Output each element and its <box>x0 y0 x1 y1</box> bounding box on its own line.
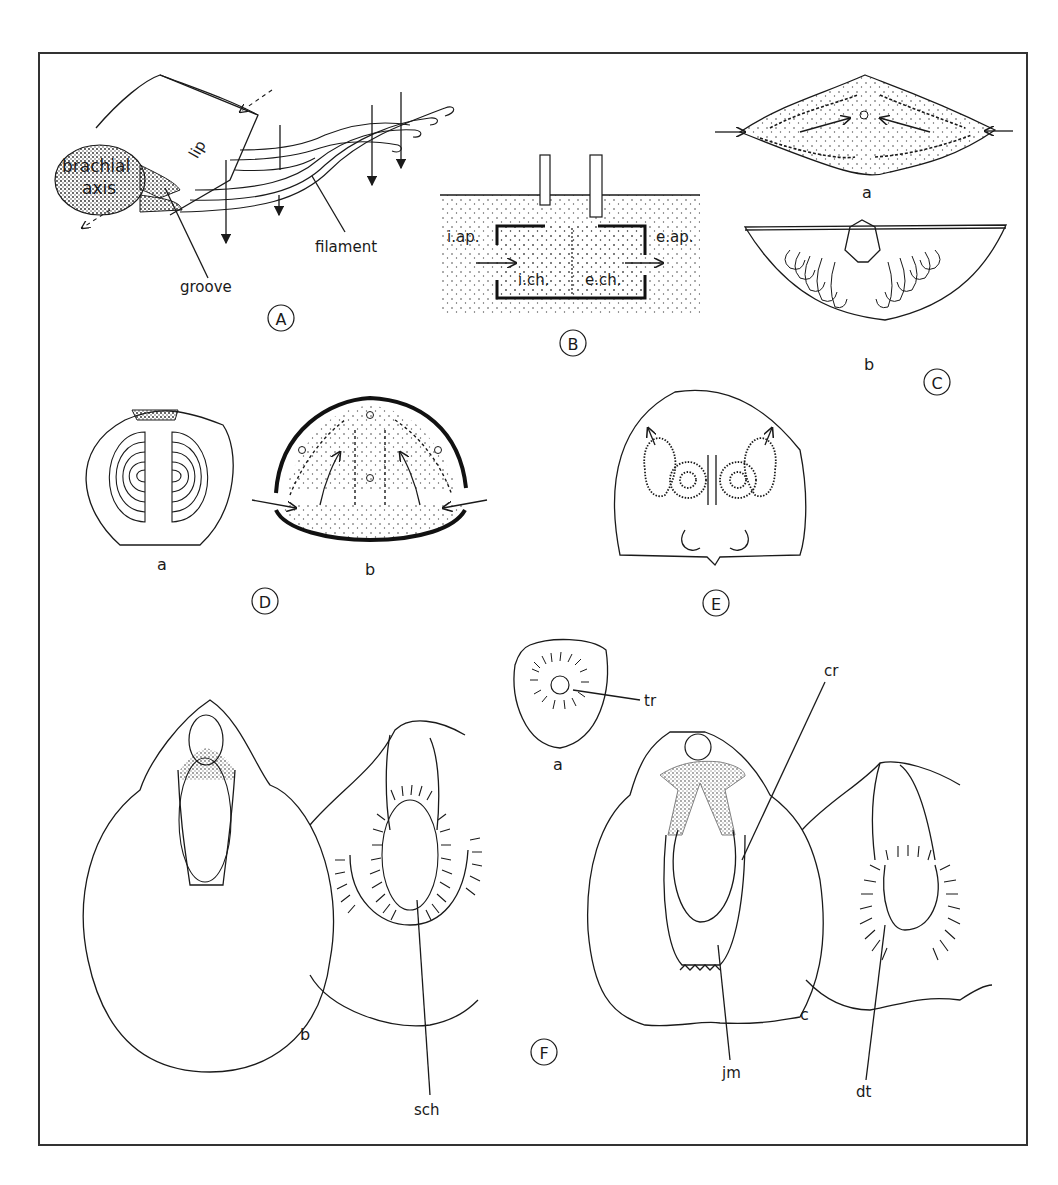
jm-leader-line <box>718 945 730 1060</box>
panel-d-plectolophe: a b D <box>86 398 487 614</box>
label-inhalant-aperture: i.ap. <box>447 228 479 246</box>
deltidial-teeth <box>860 845 960 960</box>
label-axis: axis <box>82 178 116 198</box>
sublabel-c-a: a <box>862 183 872 202</box>
filament-leader-line <box>312 176 345 232</box>
sublabel-f-a: a <box>553 755 563 774</box>
figure-canvas: lip brachial axis groove filament A i.ap… <box>0 0 1058 1185</box>
label-inhalant-chamber: i.ch. <box>518 271 549 289</box>
sch-leader-line <box>417 900 430 1095</box>
label-groove: groove <box>180 278 232 296</box>
label-sch: sch <box>414 1101 440 1119</box>
groove-leader-line <box>165 188 208 278</box>
label-dt: dt <box>856 1083 872 1101</box>
label-filament: filament <box>315 238 377 256</box>
label-tr: tr <box>644 692 657 710</box>
panel-letter-d: D <box>259 593 271 612</box>
label-cr: cr <box>824 662 839 680</box>
panel-e-spirolophe: E <box>615 390 806 616</box>
panel-letter-a: A <box>276 310 287 329</box>
sublabel-c-b: b <box>864 355 874 374</box>
sublabel-d-b: b <box>365 560 375 579</box>
panel-a-lophophore: lip brachial axis groove filament A <box>55 75 454 331</box>
panel-f-brachidia: tr a b sch cr jm c <box>83 640 992 1119</box>
panel-b-chamber-schematic: i.ap. e.ap. i.ch. e.ch. B <box>440 155 700 356</box>
panel-c-spiral-lophophore: a b C <box>715 75 1013 395</box>
label-exhalant-aperture: e.ap. <box>656 228 693 246</box>
label-jm: jm <box>721 1064 741 1082</box>
panel-letter-f: F <box>539 1044 548 1063</box>
panel-letter-c: C <box>931 374 942 393</box>
label-lip: lip <box>185 137 210 161</box>
label-exhalant-chamber: e.ch. <box>585 271 622 289</box>
sublabel-f-c: c <box>800 1005 809 1024</box>
sublabel-f-b: b <box>300 1025 310 1044</box>
panel-letter-b: B <box>568 335 579 354</box>
label-brachial: brachial <box>62 156 130 176</box>
lophophore-ring-f-a <box>530 652 589 709</box>
panel-letter-e: E <box>711 595 721 614</box>
spiral-brachidium-teeth <box>335 785 482 920</box>
sublabel-d-a: a <box>157 555 167 574</box>
dt-leader-line <box>866 925 885 1080</box>
